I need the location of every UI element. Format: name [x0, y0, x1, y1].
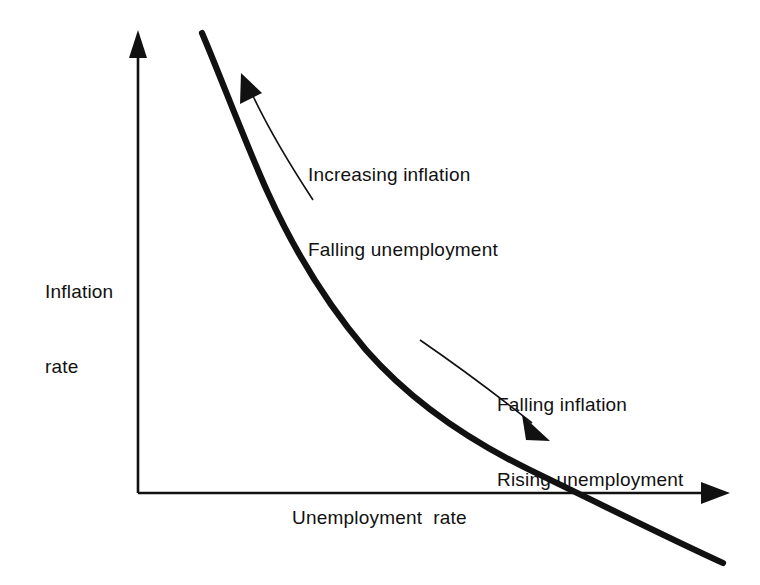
y-axis-label-line-2: rate: [45, 354, 113, 379]
y-axis-label: Inflation rate: [45, 229, 113, 404]
increasing-inflation-arrowhead-icon: [240, 73, 262, 104]
y-axis-arrowhead-icon: [129, 30, 147, 58]
increasing-inflation-line-2: Falling unemployment: [308, 237, 498, 262]
falling-inflation-annotation: Falling inflation Rising unemployment: [497, 342, 684, 517]
x-axis-label: Unemployment rate: [292, 505, 467, 530]
increasing-inflation-annotation: Increasing inflation Falling unemploymen…: [308, 112, 498, 287]
x-axis-arrowhead-icon: [701, 482, 730, 504]
falling-inflation-line-1: Falling inflation: [497, 392, 684, 417]
y-axis-label-line-1: Inflation: [45, 279, 113, 304]
increasing-inflation-line-1: Increasing inflation: [308, 162, 498, 187]
falling-inflation-line-2: Rising unemployment: [497, 467, 684, 492]
